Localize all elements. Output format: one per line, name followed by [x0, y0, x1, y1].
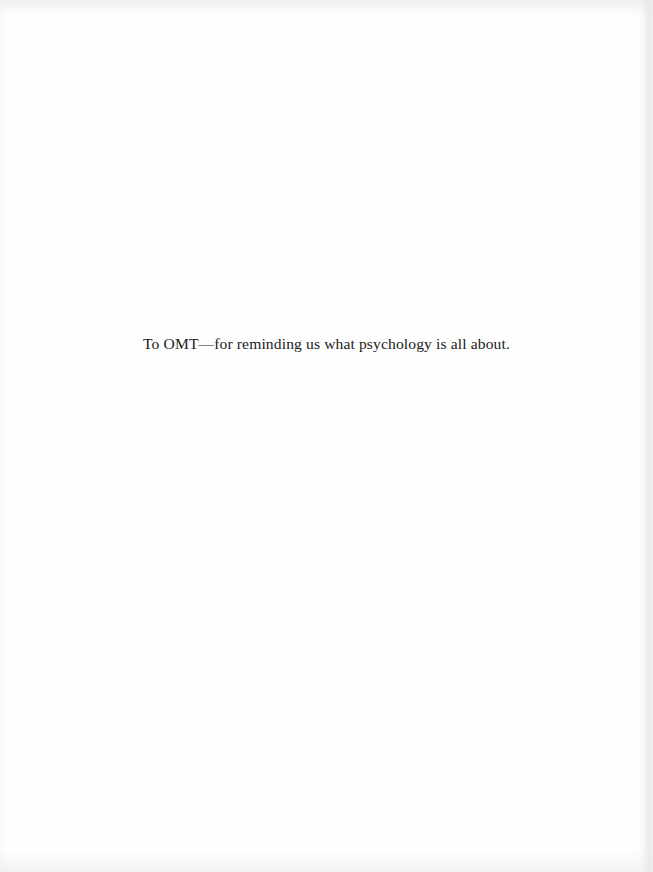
page-right-edge-shadow	[644, 0, 653, 872]
dedication-text: To OMT—for reminding us what psychology …	[143, 334, 510, 354]
dedication-block: To OMT—for reminding us what psychology …	[0, 318, 653, 369]
scanned-page: To OMT—for reminding us what psychology …	[0, 0, 653, 872]
scan-speckle-texture	[0, 0, 653, 872]
scan-paper-tint	[0, 0, 653, 872]
